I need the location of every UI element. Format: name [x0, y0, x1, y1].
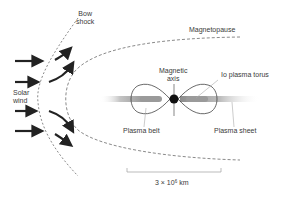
bow-shock-label-line2: shock: [76, 18, 94, 26]
io-torus-left: [140, 96, 162, 102]
bow-shock-label: Bow shock: [76, 10, 94, 26]
bow-shock-curve: [38, 18, 78, 176]
jupiter-planet: [170, 95, 179, 104]
magnetic-axis-label-line2: axis: [159, 75, 187, 83]
diagram-graphics: [0, 0, 284, 197]
bow-shock-label-line1: Bow: [76, 10, 94, 18]
magnetic-axis-label-line1: Magnetic: [159, 67, 187, 75]
plasma-belt-label: Plasma belt: [123, 127, 160, 135]
solar-wind-label-line2: wind: [13, 97, 29, 105]
io-torus-leader: [196, 80, 218, 98]
scale-unit: km: [177, 179, 188, 186]
solar-wind-label-line1: Solar: [13, 89, 29, 97]
plasma-belt-leader: [144, 108, 146, 127]
scale-exponent: 6: [175, 179, 178, 184]
solar-wind-label: Solar wind: [13, 89, 29, 105]
scale-label: 3 × 106 km: [155, 179, 188, 187]
magnetosphere-diagram: Bow shock Magnetopause Magnetic axis Io …: [0, 0, 284, 197]
scale-bar: [127, 168, 221, 172]
plasma-sheet-label: Plasma sheet: [214, 127, 256, 135]
deflected-flow-arrows: [49, 51, 71, 143]
magnetopause-label: Magnetopause: [189, 26, 235, 34]
scale-prefix: 3 × 10: [155, 179, 175, 186]
magnetic-axis-label: Magnetic axis: [159, 67, 187, 83]
plasma-sheet-leader: [232, 102, 234, 127]
io-plasma-torus-label: Io plasma torus: [221, 71, 269, 79]
